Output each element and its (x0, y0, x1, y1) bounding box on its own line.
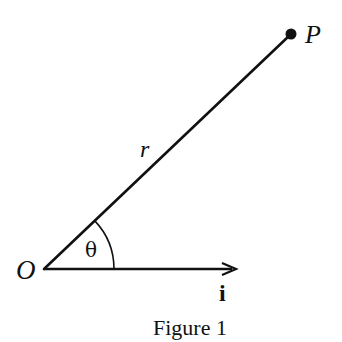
label-unit-vector-i: i (219, 280, 226, 306)
label-point-p: P (304, 20, 321, 49)
figure-caption: Figure 1 (153, 315, 227, 340)
label-origin-o: O (16, 255, 36, 285)
angle-arc-theta (95, 221, 114, 269)
radius-line-r (44, 35, 290, 269)
label-angle-theta: θ (85, 238, 97, 262)
label-radius-r: r (140, 136, 150, 162)
point-p-dot (286, 29, 297, 40)
polar-coordinates-diagram: O P r θ i Figure 1 (0, 0, 342, 342)
